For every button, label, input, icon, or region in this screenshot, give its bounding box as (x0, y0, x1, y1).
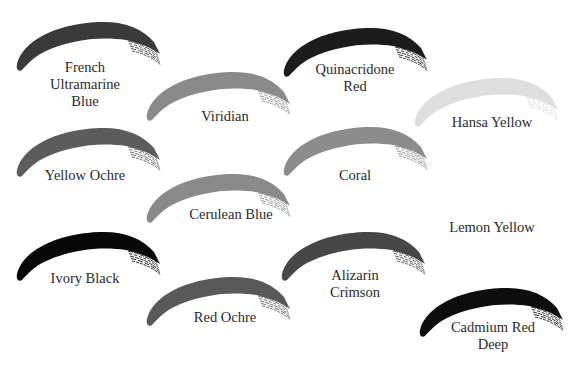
paint-label: Cadmium Red Deep (413, 319, 573, 353)
paint-label: Red Ochre (145, 309, 305, 326)
paint-label: Hansa Yellow (412, 114, 572, 131)
paint-label: Alizarin Crimson (275, 267, 435, 301)
brush-stroke-icon (144, 166, 294, 236)
brush-stroke-icon (144, 269, 294, 339)
paint-label: Ivory Black (5, 270, 165, 287)
paint-label: Lemon Yellow (412, 219, 572, 236)
paint-label: Cerulean Blue (151, 206, 311, 223)
brush-stroke-icon (412, 180, 562, 250)
paint-label: French Ultramarine Blue (5, 59, 165, 110)
paint-label: Quinacridone Red (275, 61, 435, 95)
paint-label: Yellow Ochre (5, 167, 165, 184)
paint-label: Coral (275, 167, 435, 184)
